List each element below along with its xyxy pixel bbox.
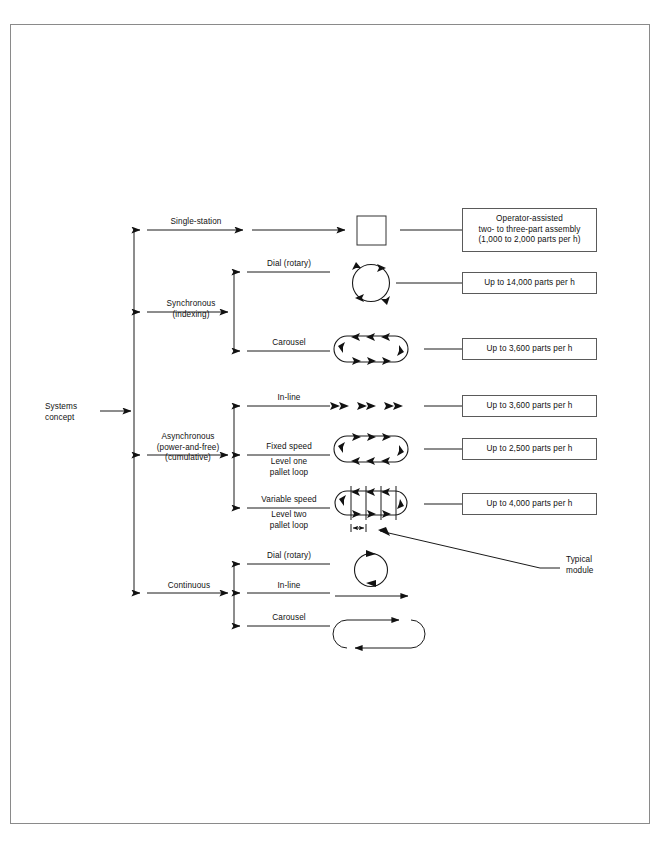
typical-module-line1: Typical (566, 555, 592, 564)
level-one-line1: Level one (271, 457, 307, 466)
sub-label-fixed-speed: Fixed speed (266, 442, 312, 453)
branch-label-asynchronous-line3: (cumulative) (165, 453, 211, 462)
sub-label-level-two-pallet-loop: Level two pallet loop (249, 510, 329, 531)
typical-module-line2: module (566, 566, 593, 575)
branch-label-asynchronous: Asynchronous (power-and-free) (cumulativ… (140, 432, 236, 464)
note-2-line-0: Up to 3,600 parts per h (486, 344, 572, 355)
note-5-line-0: Up to 4,000 parts per h (486, 499, 572, 510)
note-box-operator-assisted: Operator-assisted two- to three-part ass… (462, 208, 597, 252)
symbol-square-single-station (357, 216, 386, 245)
level-two-line2: pallet loop (270, 521, 308, 530)
branch-label-synchronous-line1: Synchronous (167, 299, 216, 308)
sub-label-level-one-pallet-loop: Level one pallet loop (249, 457, 329, 478)
symbol-stadium-plain-continuous-carousel (333, 620, 425, 648)
note-box-4000: Up to 4,000 parts per h (462, 493, 597, 515)
typical-module-callout: Typical module (566, 555, 626, 576)
systems-concept-diagram (0, 0, 662, 847)
note-box-3600-carousel: Up to 3,600 parts per h (462, 338, 597, 360)
sub-label-variable-speed: Variable speed (261, 495, 316, 506)
symbol-circle-arrows-dial (353, 265, 390, 302)
sub-label-continuous-dial: Dial (rotary) (267, 551, 311, 562)
root-label: Systems concept (45, 402, 97, 423)
branch-label-synchronous-line2: (indexing) (173, 310, 210, 319)
note-1-line-0: Up to 14,000 parts per h (484, 278, 575, 289)
typical-module-leader (380, 531, 560, 568)
note-0-line-0: Operator-assisted (478, 214, 580, 225)
note-box-2500: Up to 2,500 parts per h (462, 438, 597, 460)
note-0-line-1: two- to three-part assembly (478, 225, 580, 236)
symbol-stadium-arrows-carousel (334, 336, 408, 362)
note-4-line-0: Up to 2,500 parts per h (486, 444, 572, 455)
branch-label-asynchronous-line2: (power-and-free) (157, 443, 220, 452)
sub-label-continuous-inline: In-line (278, 581, 301, 592)
sub-label-synchronous-dial: Dial (rotary) (267, 259, 311, 270)
note-3-line-0: Up to 3,600 parts per h (486, 401, 572, 412)
note-leaders (396, 230, 462, 504)
root-label-line2: concept (45, 413, 74, 422)
branch-label-continuous: Continuous (168, 581, 210, 592)
note-box-3600-inline: Up to 3,600 parts per h (462, 395, 597, 417)
sub-label-asynchronous-inline: In-line (278, 393, 301, 404)
note-0-line-2: (1,000 to 2,000 parts per h) (478, 235, 580, 246)
level-one-line2: pallet loop (270, 468, 308, 477)
branch-label-synchronous: Synchronous (indexing) (152, 299, 230, 320)
root-label-line1: Systems (45, 402, 77, 411)
branch-label-single-station: Single-station (170, 217, 221, 228)
level-two-line1: Level two (271, 510, 307, 519)
sub-label-continuous-carousel: Carousel (272, 613, 306, 624)
sub-label-synchronous-carousel: Carousel (272, 338, 306, 349)
branch-label-asynchronous-line1: Asynchronous (161, 432, 214, 441)
flow-arrowheads (330, 262, 404, 587)
note-box-14000: Up to 14,000 parts per h (462, 272, 597, 294)
diagram-page: Systems concept Single-station Synchrono… (0, 0, 662, 847)
symbol-stadium-arrows-fixed-speed (334, 436, 408, 462)
